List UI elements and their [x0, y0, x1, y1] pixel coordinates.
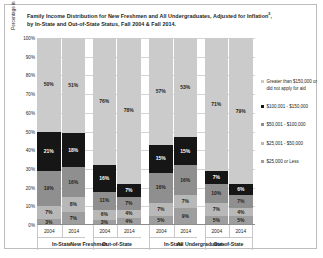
chart-title-line2: by In-State and Out-of-State Status, Fal… [27, 21, 176, 27]
stacked-bar[interactable]: 5%7%10%7%71% [205, 38, 229, 225]
legend-label: $50,001 - $100,000 [267, 122, 306, 129]
bar-segment: 7% [117, 184, 141, 197]
y-tick-label: 20% [26, 185, 35, 190]
chart-title: Family Income Distribution for New Fresh… [27, 12, 311, 29]
legend-swatch-icon [261, 142, 264, 145]
bar-segment: 15% [149, 145, 173, 173]
legend-swatch-icon [261, 160, 264, 163]
bar-segment-label: 79% [236, 109, 246, 114]
bar-segment-label: 8% [70, 202, 77, 207]
bar-segment-label: 7% [125, 188, 132, 193]
category-label-2014: 2014 [117, 225, 141, 237]
bar-segment: 4% [229, 208, 253, 215]
stacked-bar[interactable]: 3%6%11%16%76% [93, 38, 117, 225]
y-tick-label: 80% [26, 73, 35, 78]
bar-segment: 51% [62, 38, 86, 133]
legend-item[interactable]: Greater than $150,000 or did not apply f… [261, 79, 323, 93]
bar-segment: 21% [37, 132, 61, 171]
bar-segment: 6% [229, 184, 253, 195]
legend-item[interactable]: $25,001 - $50,000 [261, 141, 323, 148]
stacked-bar[interactable]: 3%7%19%21%50% [37, 38, 61, 225]
stacked-bar[interactable]: 7%8%16%18%51% [62, 38, 86, 225]
y-tick-label: 100% [23, 36, 35, 41]
bar-segment: 7% [37, 206, 61, 219]
legend-swatch-icon [261, 80, 264, 83]
y-tick-label: 10% [26, 204, 35, 209]
category-label-2004: 2004 [149, 225, 173, 237]
stacked-bar[interactable]: 5%7%16%15%57% [149, 38, 173, 225]
y-tick-label: 0% [28, 223, 35, 228]
bar-segment: 16% [62, 167, 86, 197]
bar-segment-label: 4% [125, 211, 132, 216]
category-label-2004: 2004 [93, 225, 117, 237]
bar-segment: 6% [93, 210, 117, 220]
bar-segment-label: 18% [68, 148, 78, 153]
bar-segment: 7% [229, 195, 253, 208]
legend-swatch-icon [261, 105, 264, 108]
bar-segment: 16% [93, 165, 117, 192]
category-label-2014: 2014 [229, 225, 253, 237]
y-tick-label: 40% [26, 148, 35, 153]
bar-segment: 78% [117, 38, 141, 184]
footnote-marker: 2 [268, 12, 270, 16]
legend-item[interactable]: $25,000 or Less [261, 159, 323, 166]
bar-segment-label: 19% [44, 186, 54, 191]
bar-segment: 8% [62, 197, 86, 212]
bar-segment: 79% [229, 38, 253, 184]
bar-segment-label: 7% [125, 201, 132, 206]
bar-segment-label: 57% [156, 89, 166, 94]
stacked-bar[interactable]: 4%4%7%7%78% [117, 38, 141, 225]
chart-frame: Family Income Distribution for New Fresh… [4, 4, 317, 249]
bar-segment-label: 21% [44, 149, 54, 154]
bar-segment: 4% [117, 210, 141, 217]
bar-segment-label: 7% [45, 210, 52, 215]
bar-segment-label: 7% [213, 207, 220, 212]
bar-segment-label: 6% [237, 187, 244, 192]
bar-segment-label: 16% [156, 185, 166, 190]
stacked-bar[interactable]: 9%7%16%15%53% [174, 38, 198, 225]
bar-segment: 9% [174, 208, 198, 225]
bar-segment-label: 51% [68, 83, 78, 88]
stacked-bar[interactable]: 5%4%7%6%79% [229, 38, 253, 225]
bar-segment: 7% [205, 171, 229, 184]
bar-segment: 15% [174, 137, 198, 165]
bar-segment-label: 78% [124, 108, 134, 113]
bar-segment: 16% [149, 173, 173, 203]
legend-item[interactable]: $50,001 - $100,000 [261, 122, 323, 129]
bar-segment-label: 7% [70, 216, 77, 221]
bar-segment: 16% [174, 165, 198, 195]
category-label-2014: 2014 [62, 225, 86, 237]
bar-segment-label: 11% [99, 198, 109, 203]
category-label-2014: 2014 [174, 225, 198, 237]
bar-segment-label: 15% [180, 149, 190, 154]
legend-label: $25,001 - $50,000 [267, 141, 304, 148]
bar-segment: 7% [149, 203, 173, 216]
bar-segment-label: 9% [182, 214, 189, 219]
bar-segment-label: 10% [211, 191, 221, 196]
bar-segment-label: 6% [101, 212, 108, 217]
y-tick-label: 70% [26, 92, 35, 97]
bar-segment-label: 16% [99, 176, 109, 181]
y-tick-label: 50% [26, 129, 35, 134]
bar-segment: 76% [93, 38, 117, 165]
bar-segment: 50% [37, 38, 61, 132]
bar-segment-label: 76% [99, 99, 109, 104]
bar-segment-label: 5% [213, 218, 220, 223]
bar-segment-label: 16% [180, 178, 190, 183]
category-axis: 20042014200420142004201420042014 [37, 225, 255, 237]
bar-segment: 53% [174, 38, 198, 137]
category-label-2004: 2004 [37, 225, 61, 237]
bar-segment-label: 71% [211, 102, 221, 107]
bar-segment: 71% [205, 38, 229, 171]
plot-area: Percentage in Family Income Band 0%10%20… [37, 38, 255, 225]
category-label-2004: 2004 [205, 225, 229, 237]
legend-item[interactable]: $100,001 - $150,000 [261, 104, 323, 111]
bar-segment-label: 5% [157, 218, 164, 223]
legend-label: $25,000 or Less [267, 159, 299, 166]
y-tick-label: 90% [26, 54, 35, 59]
bar-segment-label: 15% [156, 156, 166, 161]
bar-segment-label: 7% [237, 199, 244, 204]
y-axis-label: Percentage in Family Income Band [11, 0, 16, 64]
bar-segment-label: 7% [182, 199, 189, 204]
bar-segment: 7% [205, 203, 229, 216]
